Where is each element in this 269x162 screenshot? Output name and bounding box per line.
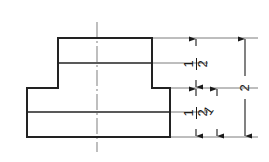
dimension-text-overall-height: 2 (237, 84, 252, 91)
engineering-drawing: 1 2 1 2 1 2 (0, 0, 269, 162)
dimension-text-lower-half-numerator: 1 (181, 109, 196, 116)
drawing-canvas: 1 2 1 2 1 2 (0, 0, 269, 162)
dimension-text-upper-half-denominator: 2 (195, 60, 210, 67)
dimension-text-upper-half-numerator: 1 (181, 60, 196, 67)
